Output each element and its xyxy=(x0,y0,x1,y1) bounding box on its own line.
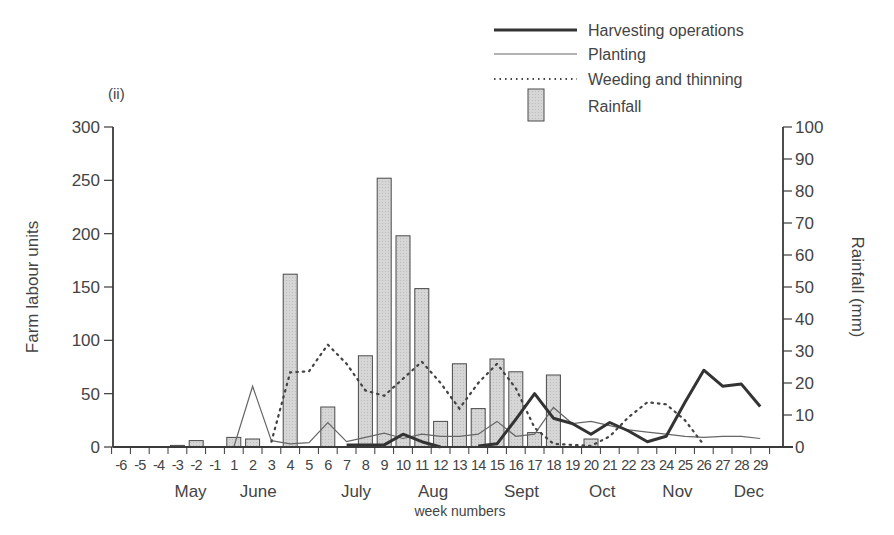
week-tick-label: 14 xyxy=(471,457,486,473)
legend-label: Rainfall xyxy=(588,98,641,115)
left-tick-label: 150 xyxy=(72,278,100,297)
week-tick-label: 3 xyxy=(268,457,276,473)
left-tick-label: 250 xyxy=(72,171,100,190)
rainfall-bar xyxy=(452,364,466,447)
month-label: Dec xyxy=(734,482,765,501)
month-label: June xyxy=(240,482,277,501)
month-label: May xyxy=(174,482,207,501)
right-tick-label: 100 xyxy=(795,118,823,137)
right-tick-label: 30 xyxy=(795,342,814,361)
right-tick-label: 80 xyxy=(795,182,814,201)
right-tick-label: 0 xyxy=(795,438,804,457)
panel-label: (ii) xyxy=(108,85,125,102)
week-tick-label: -5 xyxy=(134,457,146,473)
rainfall-bar xyxy=(246,439,260,447)
left-tick-label: 50 xyxy=(81,385,100,404)
legend-item-rainfall: Rainfall xyxy=(528,89,641,121)
week-tick-label: 28 xyxy=(734,457,749,473)
left-tick-label: 300 xyxy=(72,118,100,137)
legend-label: Planting xyxy=(588,46,646,63)
week-tick-label: 19 xyxy=(565,457,580,473)
week-tick-label: -6 xyxy=(115,457,127,473)
rainfall-bars xyxy=(170,178,598,447)
right-tick-label: 90 xyxy=(795,150,814,169)
week-tick-label: 1 xyxy=(230,457,238,473)
x-axis-title: week numbers xyxy=(413,503,505,519)
left-tick-label: 0 xyxy=(91,438,100,457)
right-tick-label: 40 xyxy=(795,310,814,329)
week-tick-label: 7 xyxy=(343,457,351,473)
week-tick-label: -3 xyxy=(172,457,184,473)
left-tick-label: 200 xyxy=(72,225,100,244)
week-tick-label: 21 xyxy=(603,457,618,473)
week-tick-label: 6 xyxy=(324,457,332,473)
week-tick-label: 9 xyxy=(381,457,389,473)
week-tick-label: 15 xyxy=(490,457,505,473)
week-tick-label: 17 xyxy=(527,457,542,473)
week-tick-label: 18 xyxy=(546,457,561,473)
rainfall-bar xyxy=(396,236,410,447)
week-tick-label: 8 xyxy=(362,457,370,473)
week-tick-label: 4 xyxy=(287,457,295,473)
week-tick-label: 25 xyxy=(678,457,693,473)
month-label: Sept xyxy=(504,482,539,501)
week-tick-label: 29 xyxy=(753,457,768,473)
right-tick-label: 10 xyxy=(795,406,814,425)
week-tick-label: 5 xyxy=(305,457,313,473)
bar-swatch-icon xyxy=(528,89,544,121)
month-label: Nov xyxy=(662,482,693,501)
legend-item-planting: Planting xyxy=(494,46,646,63)
week-tick-label: 11 xyxy=(415,457,429,473)
legend-label: Harvesting operations xyxy=(588,22,744,39)
week-tick-label: 12 xyxy=(433,457,448,473)
week-tick-label: 16 xyxy=(509,457,524,473)
legend-label: Weeding and thinning xyxy=(588,71,743,88)
rainfall-bar xyxy=(490,359,504,447)
legend-item-weeding: Weeding and thinning xyxy=(494,71,743,88)
left-tick-label: 100 xyxy=(72,331,100,350)
legend: Harvesting operations Planting Weeding a… xyxy=(494,22,744,121)
week-tick-label: 20 xyxy=(584,457,599,473)
week-tick-label: 23 xyxy=(640,457,655,473)
labour-rainfall-chart: (ii) Harvesting operations Planting Weed… xyxy=(0,0,894,535)
left-axis-title: Farm labour units xyxy=(23,221,42,353)
week-tick-label: 2 xyxy=(249,457,257,473)
right-tick-label: 70 xyxy=(795,214,814,233)
week-tick-label: 27 xyxy=(715,457,730,473)
week-tick-label: -2 xyxy=(191,457,203,473)
rainfall-bar xyxy=(377,178,391,447)
right-tick-label: 60 xyxy=(795,246,814,265)
right-axis-title: Rainfall (mm) xyxy=(848,236,867,337)
rainfall-bar xyxy=(283,274,297,447)
month-label: Oct xyxy=(589,482,616,501)
rainfall-bar xyxy=(471,409,485,447)
week-tick-label: 13 xyxy=(452,457,467,473)
rainfall-bar xyxy=(189,441,203,447)
week-tick-label: -4 xyxy=(153,457,165,473)
week-tick-label: 10 xyxy=(396,457,411,473)
week-tick-label: 26 xyxy=(697,457,712,473)
legend-item-harvesting: Harvesting operations xyxy=(494,22,744,39)
rainfall-bar xyxy=(358,356,372,447)
week-tick-label: 22 xyxy=(621,457,636,473)
right-tick-label: 20 xyxy=(795,374,814,393)
month-label: Aug xyxy=(418,482,448,501)
right-tick-label: 50 xyxy=(795,278,814,297)
rainfall-bar xyxy=(434,421,448,447)
week-tick-label: -1 xyxy=(209,457,221,473)
month-label: July xyxy=(341,482,372,501)
week-tick-label: 24 xyxy=(659,457,674,473)
